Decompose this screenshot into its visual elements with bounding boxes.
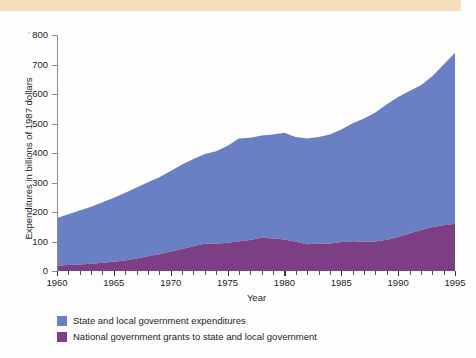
x-tick-1994: [444, 271, 445, 275]
x-tick-1984: [330, 271, 331, 275]
y-tick-400: 400: [52, 153, 57, 154]
x-tick-1967: [137, 271, 138, 275]
x-tick-1979: [273, 271, 274, 275]
x-tick-1970: [171, 271, 172, 276]
y-tick-label: 800: [32, 29, 48, 40]
y-tick-mark: [52, 124, 57, 125]
y-tick-mark: [52, 212, 57, 213]
y-tick-label: 500: [32, 118, 48, 129]
plot-area: [57, 35, 455, 271]
legend-item-national-grants: National government grants to state and …: [57, 330, 457, 343]
x-tick-1972: [193, 271, 194, 275]
y-tick-mark: [52, 153, 57, 154]
x-tick-1983: [319, 271, 320, 275]
x-tick-label-1975: 1975: [217, 277, 238, 288]
legend-swatch-national-grants: [57, 332, 67, 342]
x-tick-1960: [57, 271, 58, 276]
x-tick-1973: [205, 271, 206, 275]
x-tick-1990: [398, 271, 399, 276]
y-tick-label: 0: [43, 265, 48, 276]
x-tick-1986: [353, 271, 354, 275]
x-tick-1981: [296, 271, 297, 275]
x-tick-1974: [216, 271, 217, 275]
x-tick-1962: [80, 271, 81, 275]
x-tick-1993: [432, 271, 433, 275]
y-tick-mark: [52, 183, 57, 184]
y-tick-label: 100: [32, 236, 48, 247]
x-tick-1978: [262, 271, 263, 275]
y-tick-100: 100: [52, 242, 57, 243]
y-tick-label: 300: [32, 177, 48, 188]
y-tick-800: 800: [52, 35, 57, 36]
x-tick-1987: [364, 271, 365, 275]
x-axis-ticks: [57, 271, 456, 276]
x-tick-1963: [91, 271, 92, 275]
x-tick-label-1970: 1970: [160, 277, 181, 288]
x-tick-1980: [284, 271, 285, 276]
x-tick-1989: [387, 271, 388, 275]
stacked-area-svg: [57, 35, 455, 271]
x-tick-label-1995: 1995: [444, 277, 465, 288]
chart-figure: Expenditures in billions of 1987 dollars…: [0, 11, 476, 358]
chart-page: Expenditures in billions of 1987 dollars…: [0, 0, 476, 358]
x-tick-1982: [307, 271, 308, 275]
x-tick-1961: [68, 271, 69, 275]
x-tick-label-1960: 1960: [46, 277, 67, 288]
legend-label-state-local: State and local government expenditures: [73, 315, 246, 326]
y-tick-mark: [52, 65, 57, 66]
x-tick-label-1965: 1965: [103, 277, 124, 288]
legend-swatch-state-local: [57, 316, 67, 326]
x-tick-1995: [455, 271, 456, 276]
chart-legend: State and local government expenditures …: [57, 314, 457, 346]
x-tick-1992: [421, 271, 422, 275]
y-tick-600: 600: [52, 94, 57, 95]
y-tick-mark: [52, 242, 57, 243]
y-tick-700: 700: [52, 65, 57, 66]
x-tick-1971: [182, 271, 183, 275]
x-tick-1969: [159, 271, 160, 275]
x-tick-1985: [341, 271, 342, 276]
scan-speck: [28, 32, 30, 34]
y-tick-label: 200: [32, 206, 48, 217]
legend-item-state-local: State and local government expenditures: [57, 314, 457, 327]
y-tick-label: 400: [32, 147, 48, 158]
x-tick-label-1985: 1985: [331, 277, 352, 288]
x-tick-1991: [410, 271, 411, 275]
x-axis-title: Year: [57, 292, 456, 303]
y-tick-label: 600: [32, 88, 48, 99]
x-tick-1965: [114, 271, 115, 276]
area-state-local: [57, 53, 455, 266]
x-tick-label-1980: 1980: [274, 277, 295, 288]
y-tick-label: 700: [32, 59, 48, 70]
x-tick-1968: [148, 271, 149, 275]
x-tick-1977: [250, 271, 251, 275]
y-tick-500: 500: [52, 124, 57, 125]
legend-label-national-grants: National government grants to state and …: [73, 331, 317, 342]
y-tick-200: 200: [52, 212, 57, 213]
x-tick-1964: [102, 271, 103, 275]
scan-band-top: [0, 0, 461, 11]
scan-band-top-gap: [461, 0, 476, 11]
x-tick-label-1990: 1990: [388, 277, 409, 288]
x-tick-1966: [125, 271, 126, 275]
x-tick-1975: [228, 271, 229, 276]
y-tick-mark: [52, 35, 57, 36]
x-tick-1988: [375, 271, 376, 275]
y-tick-mark: [52, 94, 57, 95]
y-tick-300: 300: [52, 183, 57, 184]
x-tick-1976: [239, 271, 240, 275]
y-axis-line: [57, 35, 58, 272]
